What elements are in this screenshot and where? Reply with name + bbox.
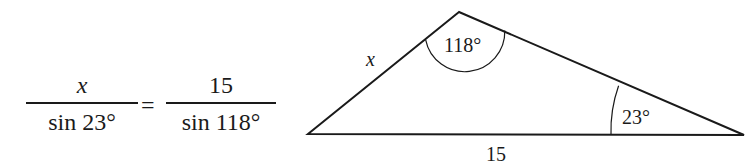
right-angle-label: 23°: [622, 106, 650, 128]
triangle-outline: [308, 12, 744, 135]
top-angle-label: 118°: [444, 34, 481, 56]
angle-arc-right: [611, 86, 619, 135]
triangle-diagram: 118° 23° x 15: [0, 0, 753, 165]
side-label-x: x: [365, 48, 375, 70]
base-label: 15: [486, 143, 506, 165]
